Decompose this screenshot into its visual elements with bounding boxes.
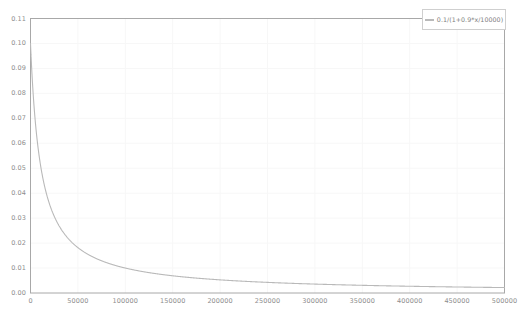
legend-line-swatch-icon <box>425 19 434 21</box>
legend-item[interactable]: 0.1/(1+0.9*x/10000) <box>425 16 503 23</box>
y-tick-label: 0.04 <box>2 189 26 197</box>
gridlines-vertical <box>78 19 457 294</box>
y-tick-label: 0.08 <box>2 89 26 97</box>
y-tick-label: 0.00 <box>2 289 26 297</box>
y-tick-label: 0.05 <box>2 164 26 172</box>
legend-item-label: 0.1/(1+0.9*x/10000) <box>437 16 503 23</box>
y-tick-label: 0.03 <box>2 214 26 222</box>
x-tick-label: 500000 <box>475 297 522 305</box>
y-tick-label: 0.02 <box>2 239 26 247</box>
chart-legend[interactable]: 0.1/(1+0.9*x/10000) <box>422 9 506 30</box>
y-tick-label: 0.11 <box>2 15 26 23</box>
y-tick-label: 0.09 <box>2 64 26 72</box>
y-tick-label: 0.10 <box>2 39 26 47</box>
y-tick-label: 0.06 <box>2 139 26 147</box>
y-tick-label: 0.07 <box>2 114 26 122</box>
y-tick-label: 0.01 <box>2 264 26 272</box>
